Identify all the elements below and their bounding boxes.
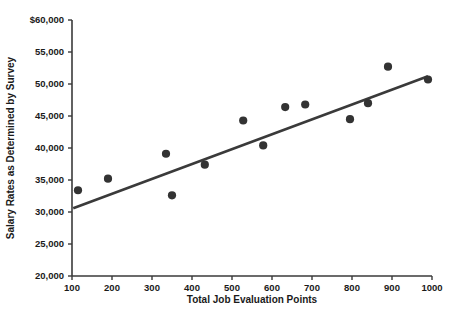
x-tick-label: 300 <box>144 282 160 293</box>
data-point-marker <box>281 103 289 111</box>
data-point-marker <box>424 75 432 83</box>
x-tick-label: 100 <box>64 282 80 293</box>
data-point-marker <box>239 116 247 124</box>
y-tick-label: 55,000 <box>35 46 64 57</box>
data-point-marker <box>201 161 209 169</box>
data-point-marker <box>162 150 170 158</box>
data-point-marker <box>301 100 309 108</box>
x-tick-label: 1000 <box>421 282 442 293</box>
x-tick-label: 200 <box>104 282 120 293</box>
x-tick-label: 800 <box>344 282 360 293</box>
data-point-marker <box>364 99 372 107</box>
x-axis-title: Total Job Evaluation Points <box>187 294 318 305</box>
x-tick-label: 500 <box>224 282 240 293</box>
y-tick-label: 20,000 <box>35 270 64 281</box>
x-tick-label: 900 <box>384 282 400 293</box>
data-point-marker <box>168 191 176 199</box>
y-tick-label: $60,000 <box>30 14 64 25</box>
data-point-marker <box>346 115 354 123</box>
y-tick-label: 50,000 <box>35 78 64 89</box>
chart-canvas: 20,00025,00030,00035,00040,00045,00050,0… <box>0 0 450 311</box>
y-tick-label: 30,000 <box>35 206 64 217</box>
x-tick-label: 600 <box>264 282 280 293</box>
chart-background <box>0 0 450 311</box>
x-tick-label: 400 <box>184 282 200 293</box>
data-point-marker <box>74 186 82 194</box>
data-point-marker <box>259 141 267 149</box>
y-tick-label: 45,000 <box>35 110 64 121</box>
scatter-chart: 20,00025,00030,00035,00040,00045,00050,0… <box>0 0 450 311</box>
data-point-marker <box>104 175 112 183</box>
y-tick-label: 35,000 <box>35 174 64 185</box>
x-tick-label: 700 <box>304 282 320 293</box>
y-axis-title: Salary Rates as Determined by Survey <box>5 56 16 239</box>
y-tick-label: 25,000 <box>35 238 64 249</box>
y-tick-label: 40,000 <box>35 142 64 153</box>
data-point-marker <box>384 63 392 71</box>
